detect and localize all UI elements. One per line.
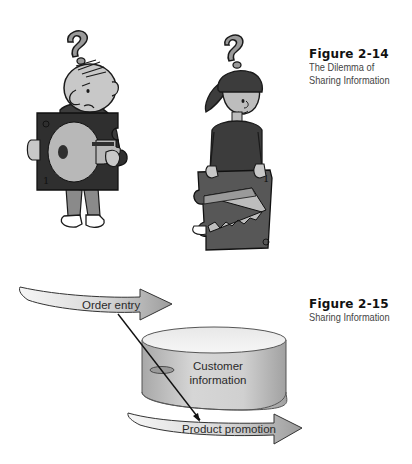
woman-character: 1 [193,35,272,250]
order-entry-label: Order entry [82,299,140,311]
figure-title-line: Sharing Information [309,311,390,324]
database-label-line1: Customer [193,360,243,372]
piece-number: 1 [43,175,49,186]
figure-title-line: Sharing Information [309,74,390,87]
man-character: 1 [27,31,127,227]
saw-puzzle-piece: 1 [194,170,272,250]
question-mark-icon [225,35,243,68]
figure-number: Figure 2-14 [309,47,401,61]
customer-database-cylinder: Customer information [142,327,287,410]
product-promotion-arrow: Product promotion [128,413,302,444]
order-entry-arrow: Order entry [19,287,172,320]
figure-title-line: The Dilemma of [309,61,390,74]
question-mark-icon [68,31,88,64]
figure-2-15-caption: Figure 2-15 Sharing Information [309,297,401,324]
database-label-line2: information [190,374,247,386]
figure-2-14-caption: Figure 2-14 The Dilemma of Sharing Infor… [309,47,401,87]
figure-number: Figure 2-15 [309,297,401,311]
product-promotion-label: Product promotion [182,423,276,435]
